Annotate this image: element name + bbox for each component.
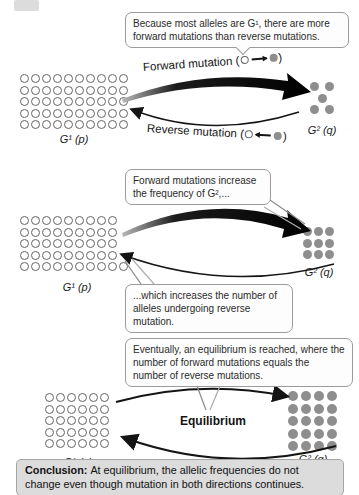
callout-pointer-line xyxy=(210,386,220,410)
g2-allele-dot xyxy=(327,404,337,414)
conclusion-bar: Conclusion:At equilibrium, the allelic f… xyxy=(16,459,344,495)
g1-allele-circle xyxy=(45,393,54,402)
g1-allele-circle xyxy=(75,86,84,95)
g1-allele-circle xyxy=(42,262,51,271)
g1-allele-circle xyxy=(97,239,106,248)
callout-pointer-line xyxy=(132,259,154,284)
g1-allele-circle xyxy=(42,120,51,129)
g1-allele-circle xyxy=(64,120,73,129)
g1-allele-circle xyxy=(75,120,84,129)
g1-allele-circle xyxy=(45,405,54,414)
g1-allele-circle xyxy=(75,74,84,83)
g1-allele-circle xyxy=(56,428,65,437)
g1-allele-circle xyxy=(56,416,65,425)
g1-allele-circle xyxy=(45,428,54,437)
left-arrow-icon xyxy=(256,134,271,136)
g1-allele-circle xyxy=(119,120,128,129)
g1-allele-pool-panel2 xyxy=(20,216,128,271)
g2-allele-dot xyxy=(288,404,298,414)
g1-allele-circle xyxy=(75,262,84,271)
g1-allele-circle xyxy=(31,109,40,118)
g1-allele-circle xyxy=(45,416,54,425)
g1-allele-circle xyxy=(86,251,95,260)
g1-allele-circle xyxy=(64,109,73,118)
g1-allele-circle xyxy=(20,239,29,248)
g1-allele-circle xyxy=(31,74,40,83)
g1-allele-circle xyxy=(75,228,84,237)
g2-allele-pool-panel2 xyxy=(303,227,334,259)
g2-allele-dot xyxy=(325,105,334,114)
reverse-label-close: ) xyxy=(283,130,288,142)
equilibrium-label: Equilibrium xyxy=(158,414,268,428)
g1-allele-circle xyxy=(78,416,87,425)
g1-allele-circle xyxy=(78,405,87,414)
g1-allele-circle xyxy=(31,86,40,95)
g1-allele-circle xyxy=(53,262,62,271)
g1-allele-circle xyxy=(97,228,106,237)
g1-allele-pool-panel3 xyxy=(45,393,109,448)
g1-allele-circle xyxy=(20,74,29,83)
g1-allele-circle xyxy=(20,109,29,118)
callout-forward-increase: Forward mutations increase the frequency… xyxy=(125,169,271,205)
filled-allele-icon xyxy=(269,54,278,63)
callout-text: Because most alleles are G¹, there are m… xyxy=(133,18,330,42)
callout-pointer-line xyxy=(197,386,206,410)
conclusion-heading: Conclusion: xyxy=(25,464,87,476)
g2-allele-dot xyxy=(325,239,334,248)
callout-pointer-line xyxy=(267,198,305,224)
g1-allele-circle xyxy=(75,239,84,248)
g2-allele-dot xyxy=(314,416,324,426)
g1-allele-circle xyxy=(67,439,76,448)
g1-allele-circle xyxy=(86,216,95,225)
g2-allele-dot xyxy=(303,250,312,259)
callout-pointer-line xyxy=(264,207,301,229)
forward-mutation-label: Forward mutation ( ) xyxy=(143,51,283,73)
forward-label-close: ) xyxy=(278,51,283,63)
g1-allele-circle xyxy=(108,86,117,95)
g2-allele-pool-panel1 xyxy=(304,82,340,114)
g1-allele-circle xyxy=(86,74,95,83)
g1-allele-circle xyxy=(67,393,76,402)
g2-allele-dot xyxy=(314,404,324,414)
g1-allele-circle xyxy=(86,228,95,237)
g2-allele-dot xyxy=(301,441,311,451)
g1-allele-circle xyxy=(86,120,95,129)
g1-allele-circle xyxy=(42,216,51,225)
g1-allele-circle xyxy=(100,405,109,414)
g1-allele-circle xyxy=(45,439,54,448)
g2-allele-dot xyxy=(325,82,334,91)
g1-allele-circle xyxy=(108,262,117,271)
g2-allele-dot xyxy=(314,429,324,439)
g1-allele-circle xyxy=(119,262,128,271)
g1-allele-circle xyxy=(108,74,117,83)
g1-allele-circle xyxy=(53,109,62,118)
g1-allele-circle xyxy=(20,97,29,106)
g2-allele-dot xyxy=(303,239,312,248)
g2-allele-dot xyxy=(288,441,298,451)
g1-allele-circle xyxy=(108,228,117,237)
g1-allele-circle xyxy=(75,97,84,106)
g1-allele-circle xyxy=(31,216,40,225)
g1-allele-circle xyxy=(31,120,40,129)
g1-allele-circle xyxy=(97,262,106,271)
g1-allele-circle xyxy=(78,393,87,402)
g1-allele-circle xyxy=(53,216,62,225)
g1-allele-circle xyxy=(119,86,128,95)
g1-allele-circle xyxy=(119,109,128,118)
g2-allele-dot xyxy=(301,391,311,401)
g2-allele-dot xyxy=(327,416,337,426)
g1-allele-circle xyxy=(20,120,29,129)
g1-allele-circle xyxy=(53,120,62,129)
g1-allele-circle xyxy=(108,97,117,106)
open-allele-icon xyxy=(245,130,253,138)
g1-allele-circle xyxy=(108,216,117,225)
g2-allele-dot xyxy=(301,404,311,414)
g1-allele-circle xyxy=(20,216,29,225)
forward-label-text: Forward mutation ( xyxy=(143,54,240,73)
g1-allele-circle xyxy=(67,428,76,437)
g1-allele-circle xyxy=(97,251,106,260)
g1-allele-circle xyxy=(42,239,51,248)
forward-mutation-arrow-3 xyxy=(116,389,285,402)
g2-allele-dot xyxy=(303,227,312,236)
g2-allele-dot xyxy=(327,441,337,451)
